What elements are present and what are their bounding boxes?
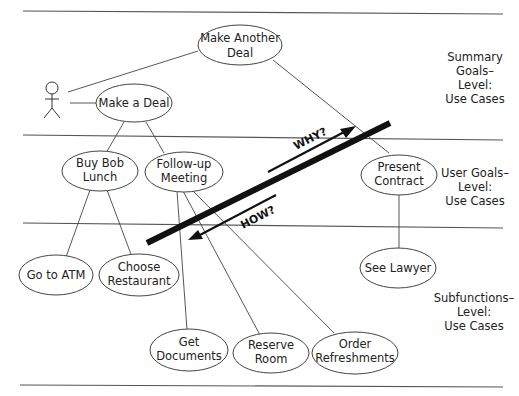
label-present-contract-2: Contract: [374, 174, 424, 188]
actor-icon: [44, 82, 60, 118]
label-follow-up-meeting: Follow-up: [157, 157, 212, 171]
level-summary-4: Use Cases: [445, 92, 504, 106]
make-a-deal-to-follow-up: [146, 122, 164, 153]
label-choose-restaurant-2: Restaurant: [108, 274, 171, 288]
make-a-deal-to-buy-bob-lunch: [106, 122, 124, 153]
level-user-3: Use Cases: [445, 194, 504, 208]
why-label: WHY?: [291, 125, 329, 153]
label-reserve-room: Reserve: [248, 338, 294, 352]
level-summary-3: Level:: [458, 78, 492, 92]
how-label: HOW?: [238, 203, 277, 231]
label-choose-restaurant: Choose: [118, 260, 160, 274]
use-case-diagram: WHY? HOW? Make Another Deal Make a Deal …: [0, 0, 519, 396]
level-sub-1: Subfunctions–: [434, 291, 515, 305]
level-labels: Summary Goals– Level: Use Cases User Goa…: [434, 50, 515, 333]
label-order-refreshments: Order: [339, 337, 372, 351]
level-user-1: User Goals–: [441, 166, 509, 180]
label-buy-bob-lunch: Buy Bob: [76, 156, 124, 170]
label-follow-up-meeting-2: Meeting: [161, 171, 207, 185]
divider-user-sub: [23, 223, 503, 228]
label-go-to-atm: Go to ATM: [27, 268, 86, 282]
label-present-contract: Present: [377, 160, 421, 174]
level-sub-2: Level:: [457, 305, 491, 319]
level-summary-1: Summary: [447, 50, 503, 64]
level-summary-2: Goals–: [456, 64, 494, 78]
label-make-another-deal: Make Another: [200, 31, 280, 45]
follow-up-to-documents: [177, 191, 187, 330]
label-see-lawyer: See Lawyer: [365, 261, 432, 275]
label-buy-bob-lunch-2: Lunch: [83, 170, 117, 184]
label-get-documents: Get: [179, 335, 200, 349]
divider-bottom: [20, 385, 503, 387]
level-dividers: [20, 11, 503, 387]
label-make-a-deal: Make a Deal: [99, 96, 170, 110]
label-reserve-room-2: Room: [255, 352, 288, 366]
level-sub-3: Use Cases: [444, 319, 503, 333]
label-order-refreshments-2: Refreshments: [315, 351, 395, 365]
divider-summary-user: [23, 135, 503, 140]
divider-top: [23, 11, 503, 14]
label-get-documents-2: Documents: [156, 349, 222, 363]
level-user-2: Level:: [458, 180, 492, 194]
label-make-another-deal-2: Deal: [227, 46, 253, 60]
follow-up-to-reserve-room: [183, 191, 260, 335]
